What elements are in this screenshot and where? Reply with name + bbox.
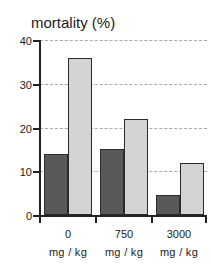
x-axis-line [33, 215, 207, 217]
x-category-label-2: 3000 [152, 228, 206, 240]
y-tick-30 [33, 84, 40, 86]
bar-dark-group-0 [44, 154, 68, 215]
x-category-unit-0: mg / kg [41, 246, 95, 258]
mortality-bar-chart: mortality (%) 40 30 20 10 0 0 750 [0, 0, 211, 273]
y-axis-label-30: 30 [6, 79, 32, 91]
x-tick-end [205, 217, 207, 223]
x-category-label-1: 750 [97, 228, 151, 240]
x-tick-group-1 [151, 217, 153, 223]
x-category-unit-1: mg / kg [97, 246, 151, 258]
bar-dark-group-1 [100, 149, 124, 215]
x-tick-start [39, 217, 41, 223]
y-tick-40 [33, 40, 40, 42]
y-tick-10 [33, 171, 40, 173]
bar-light-group-0 [68, 58, 92, 216]
gridline-30 [40, 84, 207, 85]
x-category-unit-2: mg / kg [152, 246, 206, 258]
plot-area [40, 40, 207, 215]
bar-light-group-2 [180, 163, 204, 216]
x-category-label-0: 0 [41, 228, 95, 240]
bar-dark-group-2 [156, 195, 180, 215]
y-axis-label-40: 40 [6, 35, 32, 47]
x-tick-group-0 [95, 217, 97, 223]
bar-light-group-1 [124, 119, 148, 215]
y-axis-label-10: 10 [6, 166, 32, 178]
y-axis-labels: 40 30 20 10 0 [0, 0, 32, 273]
gridline-40 [40, 40, 207, 41]
y-axis-label-0: 0 [6, 210, 32, 222]
chart-title: mortality (%) [31, 14, 115, 31]
y-axis-label-20: 20 [6, 123, 32, 135]
y-tick-20 [33, 128, 40, 130]
